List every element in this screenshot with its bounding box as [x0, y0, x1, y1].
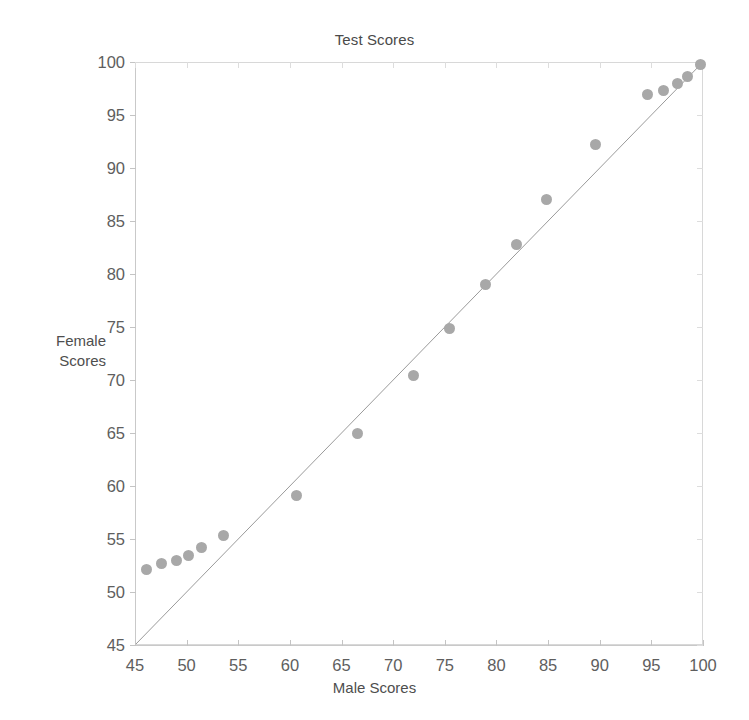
data-point	[695, 59, 706, 70]
y-tick-label: 100	[67, 54, 125, 71]
y-tick-mark	[130, 115, 136, 116]
y-tick-mark-right	[697, 433, 703, 434]
y-tick-mark	[130, 592, 136, 593]
x-tick-mark-top	[135, 62, 136, 68]
x-tick-mark-top	[393, 62, 394, 68]
x-tick-mark	[703, 640, 704, 646]
data-point	[291, 490, 302, 501]
x-tick-mark-top	[548, 62, 549, 68]
y-tick-mark-right	[697, 115, 703, 116]
y-tick-mark-right	[697, 592, 703, 593]
y-tick-label: 50	[67, 584, 125, 601]
chart-title: Test Scores	[0, 31, 749, 48]
x-tick-mark-top	[651, 62, 652, 68]
x-tick-mark	[445, 640, 446, 646]
y-tick-mark	[130, 274, 136, 275]
x-tick-mark	[651, 640, 652, 646]
data-point	[480, 279, 491, 290]
y-tick-mark	[130, 380, 136, 381]
y-tick-mark	[130, 539, 136, 540]
x-tick-mark	[135, 640, 136, 646]
x-tick-mark	[187, 640, 188, 646]
x-tick-mark-top	[496, 62, 497, 68]
y-tick-label: 90	[67, 160, 125, 177]
y-tick-mark-right	[697, 486, 703, 487]
data-point	[672, 78, 683, 89]
x-tick-mark	[393, 640, 394, 646]
data-point	[444, 323, 455, 334]
y-tick-mark	[130, 168, 136, 169]
x-tick-mark	[548, 640, 549, 646]
y-tick-label: 85	[67, 213, 125, 230]
y-axis-title-line-1: Female	[14, 331, 106, 351]
y-tick-label: 45	[67, 637, 125, 654]
x-tick-mark-top	[187, 62, 188, 68]
data-point	[171, 555, 182, 566]
y-axis-line	[135, 62, 136, 646]
x-axis-line	[135, 645, 704, 646]
data-point	[352, 428, 363, 439]
y-tick-label: 55	[67, 531, 125, 548]
data-point	[541, 194, 552, 205]
y-tick-mark	[130, 327, 136, 328]
y-tick-mark-right	[697, 327, 703, 328]
y-tick-mark-right	[697, 168, 703, 169]
x-tick-label: 100	[673, 657, 733, 674]
y-tick-mark-right	[697, 539, 703, 540]
data-point	[196, 542, 207, 553]
x-tick-mark-top	[600, 62, 601, 68]
y-tick-mark-right	[697, 380, 703, 381]
plot-area	[135, 62, 703, 645]
y-tick-label: 60	[67, 478, 125, 495]
x-tick-mark	[238, 640, 239, 646]
y-tick-mark	[130, 221, 136, 222]
y-tick-mark-right	[697, 221, 703, 222]
x-tick-mark-top	[342, 62, 343, 68]
x-tick-mark	[342, 640, 343, 646]
y-tick-mark	[130, 433, 136, 434]
y-tick-mark-right	[697, 274, 703, 275]
x-tick-mark	[600, 640, 601, 646]
y-axis-title: Female Scores	[14, 331, 106, 371]
data-point	[511, 239, 522, 250]
x-tick-mark	[496, 640, 497, 646]
x-tick-mark-top	[290, 62, 291, 68]
y-axis-title-line-2: Scores	[14, 351, 106, 371]
y-tick-label: 95	[67, 107, 125, 124]
scatter-chart-figure: Test Scores 4550556065707580859095100455…	[0, 0, 749, 720]
y-tick-label: 80	[67, 266, 125, 283]
y-tick-label: 65	[67, 425, 125, 442]
x-tick-mark	[290, 640, 291, 646]
y-tick-label: 70	[67, 372, 125, 389]
y-tick-mark	[130, 486, 136, 487]
x-axis-title: Male Scores	[0, 679, 749, 696]
x-tick-mark-top	[238, 62, 239, 68]
x-tick-mark-top	[445, 62, 446, 68]
